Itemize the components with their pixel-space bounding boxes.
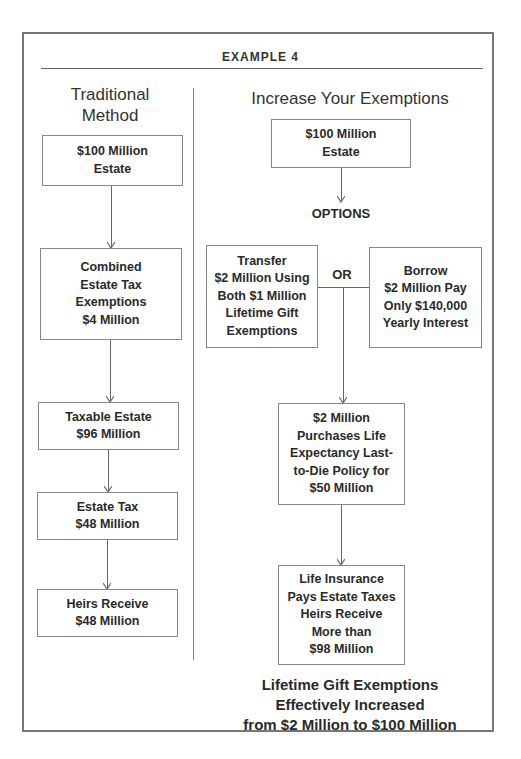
options-label: OPTIONS bbox=[290, 206, 392, 221]
left-title-line1: Traditional bbox=[30, 84, 190, 105]
arrow-down-icon bbox=[337, 195, 345, 203]
arrow-line bbox=[111, 186, 112, 248]
result-box: Life Insurance Pays Estate Taxes Heirs R… bbox=[278, 565, 405, 665]
left-taxable-box: Taxable Estate $96 Million bbox=[38, 402, 179, 450]
right-estate-box: $100 Million Estate bbox=[271, 119, 411, 168]
or-label: OR bbox=[322, 267, 362, 282]
arrow-line bbox=[341, 505, 342, 565]
left-column-title: Traditional Method bbox=[30, 84, 190, 126]
option-transfer-box: Transfer $2 Million Using Both $1 Millio… bbox=[206, 245, 318, 348]
option-borrow-box: Borrow $2 Million Pay Only $140,000 Year… bbox=[369, 247, 482, 348]
arrow-line bbox=[110, 340, 111, 402]
left-exemptions-box: Combined Estate Tax Exemptions $4 Millio… bbox=[40, 248, 182, 340]
arrow-line bbox=[343, 287, 344, 403]
header-rule bbox=[41, 68, 483, 69]
left-estate-box: $100 Million Estate bbox=[42, 135, 183, 186]
column-divider bbox=[193, 88, 194, 660]
example-title: EXAMPLE 4 bbox=[0, 50, 521, 64]
left-title-line2: Method bbox=[30, 105, 190, 126]
right-column-title: Increase Your Exemptions bbox=[205, 88, 495, 109]
policy-box: $2 Million Purchases Life Expectancy Las… bbox=[278, 403, 405, 505]
left-estate-tax-box: Estate Tax $48 Million bbox=[37, 492, 178, 540]
left-heirs-box: Heirs Receive $48 Million bbox=[37, 589, 178, 637]
or-connector-line bbox=[318, 287, 370, 288]
conclusion-text: Lifetime Gift Exemptions Effectively Inc… bbox=[200, 675, 500, 735]
